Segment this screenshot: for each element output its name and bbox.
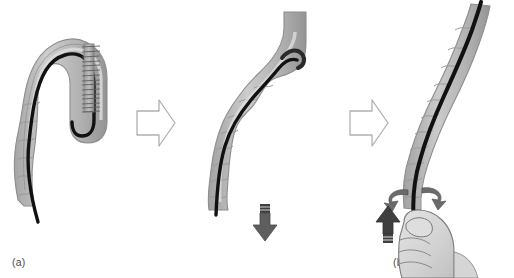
panel-b-illustration	[171, 0, 342, 278]
figure-container: (a)	[0, 0, 514, 278]
panel-c: (c)	[342, 0, 514, 278]
gripping-hand-c	[399, 210, 478, 278]
duct-wall-b	[208, 12, 306, 210]
downward-traction-arrow-b	[253, 204, 277, 241]
panel-b: (b)	[171, 0, 342, 278]
panel-a-caption: (a)	[12, 256, 25, 268]
upward-push-arrow-c	[376, 206, 400, 243]
panel-c-illustration	[342, 0, 514, 278]
